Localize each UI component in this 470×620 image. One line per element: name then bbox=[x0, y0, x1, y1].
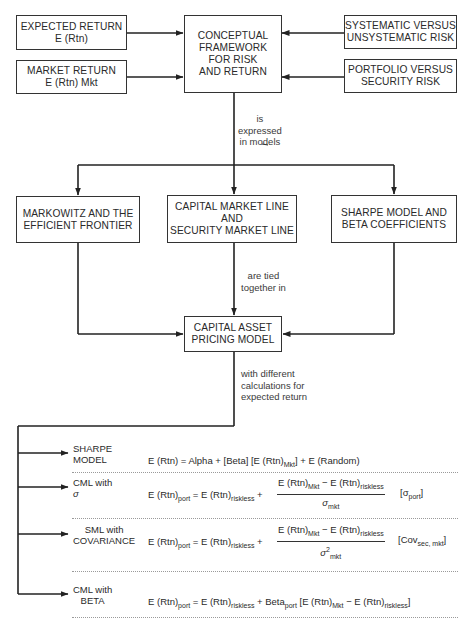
sml-covariance-tail: [Covsec, mkt] bbox=[398, 534, 446, 550]
box-line: PRICING MODEL bbox=[192, 334, 275, 346]
expressed-in-models-note: is expressed in models bbox=[238, 113, 282, 148]
formula-part: E (Rtn) bbox=[148, 596, 178, 607]
label-line: SHARPE bbox=[73, 443, 112, 454]
formula-sub: sec, mkt bbox=[418, 540, 444, 547]
portfolio-risk-box: PORTFOLIO VERSUS SECURITY RISK bbox=[344, 59, 457, 93]
formula-part: E (Rtn) bbox=[278, 477, 308, 488]
fraction-denominator: σ2mkt bbox=[277, 542, 385, 563]
box-line: FOR RISK bbox=[209, 54, 258, 66]
capm-box: CAPITAL ASSET PRICING MODEL bbox=[184, 316, 282, 352]
fraction-denominator: σmkt bbox=[277, 495, 385, 513]
markowitz-box: MARKOWITZ AND THE EFFICIENT FRONTIER bbox=[16, 196, 140, 243]
formula-part: − E (Rtn) bbox=[319, 477, 360, 488]
formula-part: ] bbox=[444, 534, 447, 545]
note-line: with different bbox=[241, 368, 307, 380]
cml-sigma-fraction: E (Rtn)Mkt − E (Rtn)riskless σmkt bbox=[277, 477, 385, 513]
formula-part: = E (Rtn) bbox=[190, 536, 231, 547]
expected-return-box: EXPECTED RETURN E (Rtn) bbox=[16, 15, 127, 50]
formula-part: E (Rtn) bbox=[278, 524, 308, 535]
box-line: SECURITY RISK bbox=[361, 76, 440, 88]
formula-sup: 2 bbox=[326, 546, 330, 553]
note-line: are tied bbox=[241, 270, 286, 282]
sharpe-model-formula: E (Rtn) = Alpha + [Beta] [E (Rtn)Mkt] + … bbox=[148, 455, 360, 471]
note-line: calculations for bbox=[241, 380, 307, 392]
different-calculations-note: with different calculations for expected… bbox=[241, 368, 307, 403]
fraction-numerator: E (Rtn)Mkt − E (Rtn)riskless bbox=[277, 524, 385, 542]
note-line: expressed bbox=[238, 125, 282, 137]
formula-part: + bbox=[254, 536, 262, 547]
label-line: COVARIANCE bbox=[73, 535, 135, 546]
formula-part: [E (Rtn) bbox=[297, 596, 332, 607]
formula-sub: Mkt bbox=[308, 530, 319, 537]
row-divider bbox=[72, 571, 458, 572]
formula-sub: riskless bbox=[360, 530, 383, 537]
box-line: EXPECTED RETURN bbox=[21, 21, 123, 33]
box-line: PORTFOLIO VERSUS bbox=[348, 64, 453, 76]
formula-part: + bbox=[254, 489, 262, 500]
sharpe-beta-box: SHARPE MODEL AND BETA COEFFICIENTS bbox=[331, 195, 457, 243]
note-line: expected return bbox=[241, 391, 307, 403]
box-line: SHARPE MODEL AND bbox=[341, 207, 447, 219]
box-line: SYSTEMATIC VERSUS bbox=[345, 20, 456, 32]
formula-sub: riskless bbox=[231, 602, 254, 609]
formula-sub: riskless bbox=[231, 542, 254, 549]
formula-part: ] bbox=[421, 487, 424, 498]
note-line: together in bbox=[241, 282, 286, 294]
formula-sub: riskless bbox=[384, 602, 407, 609]
formula-sub: Mkt bbox=[332, 602, 343, 609]
row-divider bbox=[72, 518, 458, 519]
box-line: MARKOWITZ AND THE bbox=[23, 208, 134, 220]
box-line: EFFICIENT FRONTIER bbox=[23, 220, 132, 232]
formula-part: E (Rtn) bbox=[148, 536, 178, 547]
formula-part: − E (Rtn) bbox=[344, 596, 385, 607]
label-line: MODEL bbox=[73, 454, 112, 465]
formula-part: − E (Rtn) bbox=[319, 524, 360, 535]
formula-sub: port bbox=[409, 493, 421, 500]
label-line: SML with bbox=[73, 524, 135, 535]
formula-sub: Mkt bbox=[284, 461, 295, 468]
box-line: FRAMEWORK bbox=[199, 42, 267, 54]
formula-part: = E (Rtn) bbox=[190, 489, 231, 500]
tied-together-note: are tied together in bbox=[241, 270, 286, 293]
formula-part: E (Rtn) = Alpha + [Beta] [E (Rtn) bbox=[148, 455, 284, 466]
formula-sub: mkt bbox=[328, 503, 339, 510]
fraction-numerator: E (Rtn)Mkt − E (Rtn)riskless bbox=[277, 477, 385, 495]
cml-beta-formula: E (Rtn)port = E (Rtn)riskless + Betaport… bbox=[148, 596, 410, 612]
cml-sigma-formula-lhs: E (Rtn)port = E (Rtn)riskless + bbox=[148, 489, 263, 505]
label-line: σ bbox=[73, 488, 112, 499]
formula-sub: port bbox=[178, 542, 190, 549]
sharpe-model-label: SHARPE MODEL bbox=[73, 443, 112, 465]
box-line: AND bbox=[221, 213, 243, 225]
formula-sub: mkt bbox=[330, 553, 341, 560]
label-line: CML with bbox=[73, 477, 112, 488]
box-line: E (Rtn) Mkt bbox=[45, 77, 98, 89]
sml-covariance-fraction: E (Rtn)Mkt − E (Rtn)riskless σ2mkt bbox=[277, 524, 385, 563]
box-line: AND RETURN bbox=[199, 66, 267, 78]
cml-sigma-tail: [σport] bbox=[400, 487, 423, 503]
formula-sub: port bbox=[178, 495, 190, 502]
formula-part: + Beta bbox=[254, 596, 284, 607]
formula-part: = E (Rtn) bbox=[190, 596, 231, 607]
box-line: UNSYSTEMATIC RISK bbox=[347, 32, 454, 44]
cml-sigma-label: CML with σ bbox=[73, 477, 112, 499]
label-line: CML with bbox=[73, 584, 112, 595]
conceptual-framework-box: CONCEPTUAL FRAMEWORK FOR RISK AND RETURN bbox=[184, 15, 282, 93]
sml-covariance-label: SML with COVARIANCE bbox=[73, 524, 135, 546]
formula-part: [Cov bbox=[398, 534, 418, 545]
box-line: SECURITY MARKET LINE bbox=[170, 225, 294, 237]
row-divider bbox=[72, 617, 458, 618]
formula-part: [σ bbox=[400, 487, 409, 498]
formula-part: ] + E (Random) bbox=[295, 455, 360, 466]
box-line: CAPITAL ASSET bbox=[194, 322, 272, 334]
cml-beta-label: CML with BETA bbox=[73, 584, 112, 606]
box-line: CAPITAL MARKET LINE bbox=[175, 201, 289, 213]
box-line: E (Rtn) bbox=[55, 33, 88, 45]
note-line: is bbox=[238, 113, 282, 125]
formula-part: ] bbox=[408, 596, 411, 607]
box-line: BETA COEFFICIENTS bbox=[342, 219, 447, 231]
box-line: CONCEPTUAL bbox=[198, 30, 269, 42]
formula-sub: riskless bbox=[231, 495, 254, 502]
cml-sml-box: CAPITAL MARKET LINE AND SECURITY MARKET … bbox=[167, 195, 297, 243]
formula-sub: Mkt bbox=[308, 483, 319, 490]
formula-sub: port bbox=[285, 602, 297, 609]
